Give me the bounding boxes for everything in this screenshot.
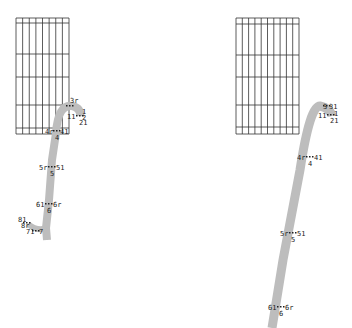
point-label: 4 [308, 160, 312, 168]
point-label: 5r [280, 230, 288, 238]
point-label: 41 [60, 128, 68, 136]
point-marker [330, 114, 332, 116]
point-marker [56, 130, 58, 132]
point-marker [66, 105, 68, 107]
point-label: 41 [314, 154, 322, 162]
point-label: 6r [285, 304, 293, 312]
point-label: 4r [297, 154, 305, 162]
point-label: 21 [330, 117, 338, 125]
point-marker [79, 115, 81, 117]
point-label: 61 [36, 201, 44, 209]
point-label: 5 [291, 236, 295, 244]
point-label: 11 [67, 113, 75, 121]
point-label: 71 [26, 228, 34, 236]
point-marker [69, 105, 71, 107]
control-point-5[interactable]: 5r515 [39, 164, 64, 178]
point-marker [45, 203, 47, 205]
point-marker [72, 105, 74, 107]
point-label: 3r [70, 97, 78, 105]
point-label: 51 [56, 164, 64, 172]
point-label: 6 [47, 207, 51, 215]
point-label: 6r [53, 201, 61, 209]
left-panel: 3r1112214r4145r515616r6818r717 [16, 18, 87, 240]
point-label: 5 [50, 170, 54, 178]
point-label: 21 [79, 119, 87, 127]
diagram-canvas: 3r1112214r4145r515616r6818r717 331111214… [0, 0, 352, 328]
point-marker [48, 166, 50, 168]
point-marker [280, 306, 282, 308]
point-label: 51 [297, 230, 305, 238]
point-marker [292, 232, 294, 234]
point-marker [309, 156, 311, 158]
control-point-6[interactable]: 616r6 [36, 201, 61, 215]
point-label: 4 [55, 134, 59, 142]
point-marker [327, 114, 329, 116]
point-label: 6 [279, 310, 283, 318]
grid [236, 18, 299, 134]
point-label: 4r [45, 128, 53, 136]
brush-stroke [272, 106, 332, 328]
point-marker [277, 306, 279, 308]
point-label: 7 [39, 228, 43, 236]
point-marker [289, 232, 291, 234]
point-label: 3 [323, 103, 327, 111]
point-marker [76, 115, 78, 117]
point-label: 5r [39, 164, 47, 172]
point-label: 11 [318, 112, 326, 120]
point-label: 61 [268, 304, 276, 312]
point-marker [306, 156, 308, 158]
point-marker [35, 230, 37, 232]
point-marker [51, 166, 53, 168]
control-point-4[interactable]: 4r414 [45, 128, 68, 142]
right-panel: 331111214r4145r515616r6 [236, 18, 338, 328]
point-marker [48, 203, 50, 205]
